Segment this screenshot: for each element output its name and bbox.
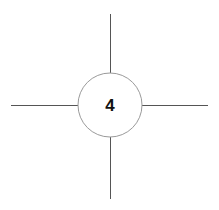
node-diagram: 4: [0, 0, 219, 210]
diagram-canvas: 4: [0, 0, 219, 210]
node-label: 4: [105, 96, 115, 115]
